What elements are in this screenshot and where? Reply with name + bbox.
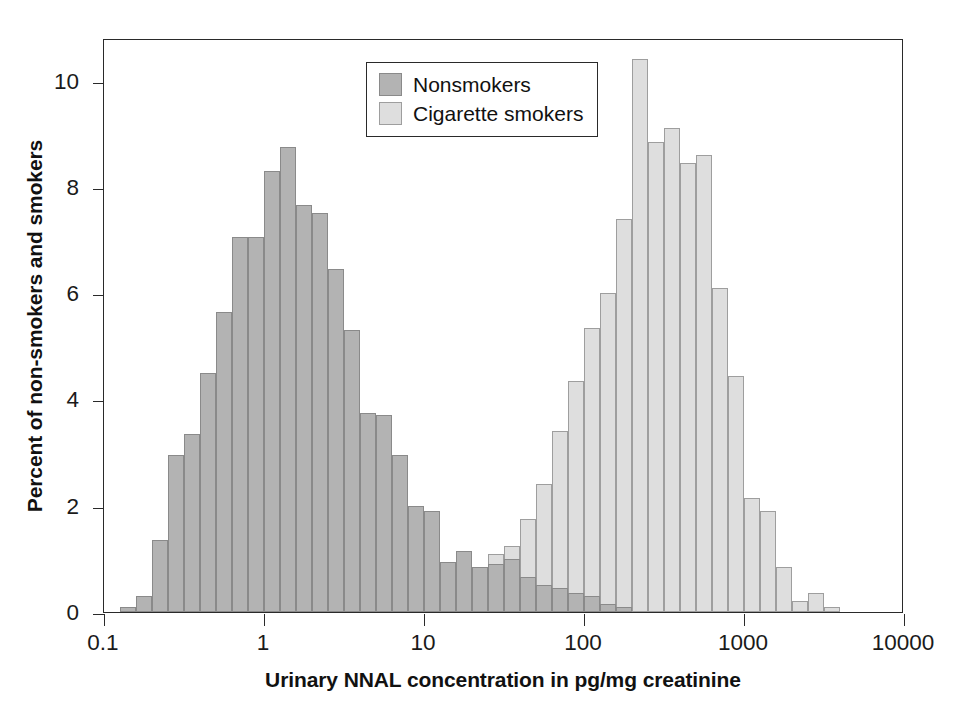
x-tick-mark xyxy=(744,614,745,626)
y-tick-mark xyxy=(93,508,104,509)
histogram-figure: Percent of non-smokers and smokers 02468… xyxy=(0,0,956,721)
x-tick-label: 100 xyxy=(564,632,602,655)
y-tick-label: 4 xyxy=(49,389,79,412)
histogram-bar xyxy=(424,511,440,612)
histogram-bar xyxy=(664,128,680,612)
histogram-bar xyxy=(600,293,616,612)
y-axis-title-container: Percent of non-smokers and smokers xyxy=(24,39,58,613)
histogram-bar xyxy=(184,434,200,612)
histogram-bar xyxy=(552,431,568,612)
y-tick-label: 10 xyxy=(49,71,79,94)
x-tick-mark xyxy=(424,614,425,626)
histogram-bar xyxy=(216,312,232,612)
histogram-bar xyxy=(360,413,376,612)
histogram-bar xyxy=(616,219,632,612)
x-tick-mark xyxy=(264,614,265,626)
scan-artifact xyxy=(0,0,956,22)
histogram-bar xyxy=(488,564,504,612)
histogram-bar xyxy=(824,607,840,612)
x-axis-title: Urinary NNAL concentration in pg/mg crea… xyxy=(103,668,903,692)
histogram-bar xyxy=(744,498,760,612)
y-tick-label: 8 xyxy=(49,177,79,200)
y-tick-mark xyxy=(93,189,104,190)
histogram-bar xyxy=(328,269,344,612)
histogram-bar xyxy=(248,237,264,612)
histogram-bar xyxy=(264,171,280,612)
histogram-bar xyxy=(232,237,248,612)
legend-label-nonsmokers: Nonsmokers xyxy=(413,73,531,97)
histogram-bar xyxy=(552,588,568,612)
histogram-bar xyxy=(456,551,472,612)
histogram-bar xyxy=(648,142,664,612)
x-tick-mark xyxy=(104,614,105,626)
histogram-bar xyxy=(408,506,424,612)
histogram-bar xyxy=(312,213,328,612)
histogram-bar xyxy=(504,559,520,612)
histogram-bar xyxy=(568,593,584,612)
x-tick-label: 10000 xyxy=(872,632,935,655)
histogram-bar xyxy=(472,567,488,612)
histogram-bar xyxy=(520,577,536,612)
x-tick-label: 0.1 xyxy=(87,632,118,655)
x-tick-label: 1000 xyxy=(718,632,768,655)
x-tick-mark xyxy=(904,614,905,626)
histogram-bar xyxy=(280,147,296,612)
histogram-bar xyxy=(376,415,392,612)
histogram-bar xyxy=(296,205,312,612)
histogram-bar xyxy=(344,330,360,612)
histogram-bar xyxy=(568,381,584,612)
histogram-bar xyxy=(200,373,216,612)
x-tick-label: 10 xyxy=(410,632,435,655)
legend-label-cigarette-smokers: Cigarette smokers xyxy=(413,102,583,126)
histogram-bar xyxy=(152,540,168,612)
histogram-bar xyxy=(792,601,808,612)
histogram-bar xyxy=(584,328,600,612)
histogram-bar xyxy=(696,155,712,612)
histogram-bar xyxy=(776,567,792,612)
y-tick-label: 2 xyxy=(49,496,79,519)
histogram-bar xyxy=(808,593,824,612)
y-axis-title: Percent of non-smokers and smokers xyxy=(18,39,52,613)
histogram-bar xyxy=(392,455,408,612)
histogram-bar xyxy=(632,59,648,612)
histogram-bar xyxy=(136,596,152,612)
histogram-bar xyxy=(616,607,632,612)
histogram-bar xyxy=(440,562,456,612)
y-tick-mark xyxy=(93,401,104,402)
chart-legend: Nonsmokers Cigarette smokers xyxy=(366,62,598,137)
histogram-bar xyxy=(728,376,744,613)
histogram-bar xyxy=(712,288,728,612)
histogram-bar xyxy=(584,596,600,612)
histogram-bar xyxy=(168,455,184,612)
y-tick-label: 6 xyxy=(49,283,79,306)
legend-item-nonsmokers: Nonsmokers xyxy=(379,70,587,99)
histogram-bar xyxy=(760,511,776,612)
legend-swatch-nonsmokers xyxy=(379,73,402,96)
x-tick-label: 1 xyxy=(257,632,270,655)
histogram-bar xyxy=(536,585,552,612)
histogram-bar xyxy=(600,604,616,612)
y-tick-mark xyxy=(93,83,104,84)
x-tick-mark xyxy=(584,614,585,626)
legend-swatch-cigarette-smokers xyxy=(379,102,402,125)
histogram-bar xyxy=(680,163,696,612)
y-tick-mark xyxy=(93,295,104,296)
legend-item-cigarette-smokers: Cigarette smokers xyxy=(379,99,587,128)
histogram-bar xyxy=(120,607,136,612)
y-tick-label: 0 xyxy=(49,602,79,625)
y-tick-mark xyxy=(93,614,104,615)
